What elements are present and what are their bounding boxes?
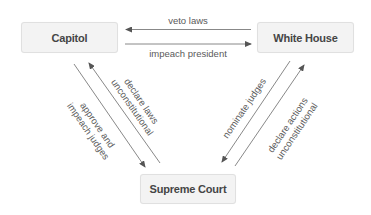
edges-layer: veto laws impeach president approve and …: [0, 0, 371, 215]
edge-veto-laws-label: veto laws: [168, 15, 208, 26]
edge-impeach-president-label: impeach president: [149, 48, 227, 59]
edge-impeach-president: impeach president: [125, 44, 251, 59]
edge-veto-laws: veto laws: [126, 15, 251, 30]
edge-nominate-judges-label: nominate judges: [220, 76, 268, 140]
